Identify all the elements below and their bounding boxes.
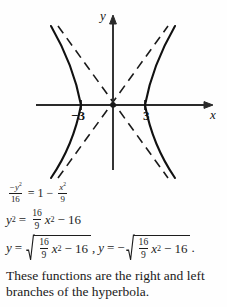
equation-3-first-square-root: 16 9 x2 − 16 (26, 234, 91, 261)
equation-2-fraction-numerator: 16 (30, 208, 44, 219)
equation-3-second-constant: 16 (174, 241, 187, 257)
equation-1-left-numerator-text: −y (9, 182, 19, 192)
left-vertex-label: −3 (71, 108, 85, 123)
equation-2-constant: 16 (68, 212, 81, 228)
equation-3-second-negative-sign: − (117, 240, 124, 256)
equation-1-left-denominator: 16 (9, 193, 22, 204)
y-axis-arrowhead (110, 15, 117, 24)
equation-1-right-numerator-exponent: 2 (63, 181, 66, 187)
equation-2-lhs-variable: y (6, 212, 12, 228)
equation-3-first-variable: x (52, 241, 58, 257)
equation-2-coefficient-fraction: 16 9 (30, 208, 44, 230)
equation-3-first-equals-sign: = (12, 240, 25, 256)
equation-3-second-square-root: 16 9 x2 − 16 (126, 234, 191, 261)
equation-3-second-fraction: 16 9 (137, 237, 151, 259)
equation-3-second-fraction-denominator: 9 (139, 248, 148, 260)
hyperbola-plot-svg: y x −3 3 (0, 0, 227, 182)
equation-2-fraction-denominator: 9 (33, 219, 42, 231)
equation-1-equals-sign: = (25, 186, 38, 201)
equation-3-second-equals-sign: = (104, 240, 117, 256)
equation-1-left-fraction: −y2 16 (7, 183, 24, 204)
equation-3-first-minus-sign: − (62, 241, 75, 257)
equation-line-2: y2 = 16 9 x2 − 16 (6, 206, 221, 233)
right-vertex-label: 3 (143, 108, 150, 123)
equation-3-first-radicand: 16 9 x2 − 16 (35, 235, 91, 261)
prose-block: These functions are the right and left b… (0, 268, 227, 300)
prose-text: These functions are the right and left b… (6, 268, 221, 300)
equation-3-period: . (191, 240, 194, 256)
equation-3-second-fraction-numerator: 16 (137, 237, 151, 248)
radical-sign-icon (126, 234, 135, 261)
equation-1-minus-sign: − (43, 186, 56, 201)
equation-1-right-denominator: 9 (58, 193, 66, 204)
equation-3-first-constant: 16 (75, 241, 88, 257)
equation-line-3: y = 16 9 x2 − 16 , y = − (6, 233, 221, 263)
equation-3-second-minus-sign: − (161, 241, 174, 257)
equation-2-variable: x (45, 212, 51, 228)
x-axis-label: x (209, 107, 216, 122)
equation-1-right-numerator: x2 (57, 183, 68, 193)
origin-marker (110, 102, 116, 108)
axes-group (36, 15, 213, 170)
figure-page: y x −3 3 −y2 16 = 1 − x2 9 y2 = (0, 0, 227, 307)
left-branch-curve (51, 26, 81, 178)
equation-1-left-numerator-exponent: 2 (19, 181, 22, 187)
equation-3-first-fraction-numerator: 16 (37, 237, 51, 248)
equation-1-left-numerator: −y2 (7, 183, 24, 193)
equation-3-first-fraction-denominator: 9 (40, 248, 49, 260)
equation-3-first-fraction: 16 9 (37, 237, 51, 259)
radical-sign-icon (26, 234, 35, 261)
equation-1-right-fraction: x2 9 (57, 183, 68, 204)
hyperbola-figure: y x −3 3 (0, 0, 227, 182)
equation-3-second-radicand: 16 9 x2 − 16 (135, 235, 191, 261)
equation-2-equals-sign: = (16, 212, 29, 228)
equation-line-1: −y2 16 = 1 − x2 9 (6, 180, 221, 206)
right-branch-curve (145, 26, 175, 178)
equation-2-minus-sign: − (55, 212, 68, 228)
y-axis-label: y (98, 8, 106, 23)
